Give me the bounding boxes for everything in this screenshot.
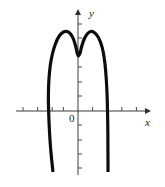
y-axis-label: y xyxy=(89,8,94,19)
x-axis-label: x xyxy=(145,117,150,128)
origin-label: 0 xyxy=(69,113,75,124)
polynomial-graph-figure: y x 0 xyxy=(0,0,165,187)
plot-canvas xyxy=(0,0,165,187)
x-axis-ticks xyxy=(23,107,136,111)
